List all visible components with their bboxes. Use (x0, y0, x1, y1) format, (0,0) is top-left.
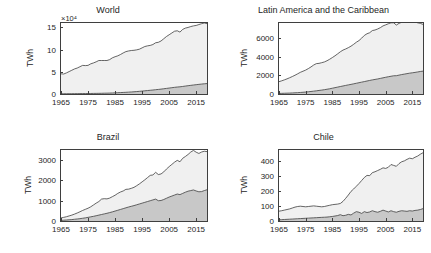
x-tick-label: 1965 (52, 98, 70, 107)
y-tick-label: 300 (216, 171, 274, 180)
x-tick-label: 2005 (377, 225, 395, 234)
x-tick-label: 1965 (270, 98, 288, 107)
area-band-upper (61, 23, 207, 94)
panel-chile: Chile TWh 010020030040019651975198519952… (216, 127, 431, 253)
y-tick-label: 10 (0, 45, 56, 54)
x-tick-label: 1985 (323, 98, 341, 107)
y-tick-label: 400 (216, 156, 274, 165)
x-tick-label: 2015 (187, 98, 205, 107)
x-tick-label: 2005 (160, 98, 178, 107)
x-tick-mark (359, 91, 360, 94)
y-tick-mark (60, 27, 63, 28)
x-tick-mark (196, 91, 197, 94)
plot-area-brazil (60, 149, 208, 222)
y-tick-label: 0 (216, 217, 274, 226)
plot-area-latin-america (278, 22, 424, 95)
x-tick-mark (142, 218, 143, 221)
plot-area-chile (278, 149, 424, 222)
y-tick-label: 15 (0, 23, 56, 32)
x-tick-label: 2005 (377, 98, 395, 107)
x-tick-label: 2015 (187, 225, 205, 234)
y-tick-label: 0 (216, 90, 274, 99)
series-canvas (279, 150, 423, 221)
panel-latin-america: Latin America and the Caribbean TWh 0200… (216, 0, 431, 127)
panel-title-brazil: Brazil (0, 132, 216, 143)
x-tick-label: 2005 (160, 225, 178, 234)
panel-brazil: Brazil TWh 01000200030001965197519851995… (0, 127, 216, 253)
panel-title-world: World (0, 5, 216, 16)
x-tick-label: 1975 (297, 98, 315, 107)
y-tick-label: 2000 (216, 71, 274, 80)
y-tick-mark (60, 50, 63, 51)
x-tick-mark (412, 91, 413, 94)
x-tick-mark (115, 218, 116, 221)
x-tick-label: 1975 (79, 98, 97, 107)
x-tick-mark (61, 91, 62, 94)
y-tick-mark (278, 191, 281, 192)
x-tick-mark (412, 218, 413, 221)
x-tick-label: 1975 (297, 225, 315, 234)
panel-title-chile: Chile (216, 132, 431, 143)
x-tick-mark (169, 218, 170, 221)
x-tick-mark (169, 91, 170, 94)
y-tick-mark (278, 57, 281, 58)
series-canvas (279, 23, 423, 94)
plot-area-world (60, 22, 208, 95)
y-tick-label: 1000 (0, 196, 56, 205)
y-tick-label: 6000 (216, 33, 274, 42)
y-tick-mark (60, 221, 63, 222)
x-tick-label: 1975 (79, 225, 97, 234)
y-tick-label: 5 (0, 67, 56, 76)
panel-world: World ×10⁴ TWh 0510151965197519851995200… (0, 0, 216, 127)
x-tick-label: 1995 (133, 225, 151, 234)
x-tick-mark (279, 91, 280, 94)
x-tick-mark (279, 218, 280, 221)
series-canvas (61, 150, 207, 221)
x-tick-label: 2015 (403, 225, 421, 234)
x-tick-label: 1985 (106, 98, 124, 107)
x-tick-label: 1965 (270, 225, 288, 234)
x-tick-mark (306, 218, 307, 221)
x-tick-mark (88, 218, 89, 221)
x-tick-mark (306, 91, 307, 94)
y-tick-mark (60, 201, 63, 202)
y-tick-label: 0 (0, 90, 56, 99)
x-tick-mark (115, 91, 116, 94)
y-tick-mark (278, 206, 281, 207)
panel-title-latin-america: Latin America and the Caribbean (216, 5, 431, 16)
x-tick-mark (386, 91, 387, 94)
y-tick-mark (60, 180, 63, 181)
area-band-upper (279, 153, 423, 220)
figure-container: World ×10⁴ TWh 0510151965197519851995200… (0, 0, 431, 253)
y-tick-mark (278, 161, 281, 162)
x-tick-label: 1985 (323, 225, 341, 234)
y-tick-label: 4000 (216, 52, 274, 61)
x-tick-label: 1995 (350, 225, 368, 234)
y-tick-label: 2000 (0, 176, 56, 185)
y-tick-label: 0 (0, 217, 56, 226)
x-tick-label: 1965 (52, 225, 70, 234)
y-tick-mark (278, 75, 281, 76)
x-tick-label: 1995 (350, 98, 368, 107)
y-tick-mark (60, 94, 63, 95)
x-tick-label: 1985 (106, 225, 124, 234)
x-tick-mark (88, 91, 89, 94)
y-tick-mark (278, 38, 281, 39)
y-tick-mark (278, 94, 281, 95)
y-tick-label: 200 (216, 186, 274, 195)
x-tick-mark (332, 91, 333, 94)
y-tick-label: 3000 (0, 156, 56, 165)
y-tick-mark (278, 176, 281, 177)
x-tick-mark (142, 91, 143, 94)
x-tick-label: 2015 (403, 98, 421, 107)
y-tick-mark (278, 221, 281, 222)
x-tick-mark (332, 218, 333, 221)
x-tick-mark (61, 218, 62, 221)
y-tick-mark (60, 160, 63, 161)
x-tick-mark (386, 218, 387, 221)
x-tick-mark (196, 218, 197, 221)
y-tick-mark (60, 72, 63, 73)
x-tick-label: 1995 (133, 98, 151, 107)
y-tick-label: 100 (216, 201, 274, 210)
x-tick-mark (359, 218, 360, 221)
